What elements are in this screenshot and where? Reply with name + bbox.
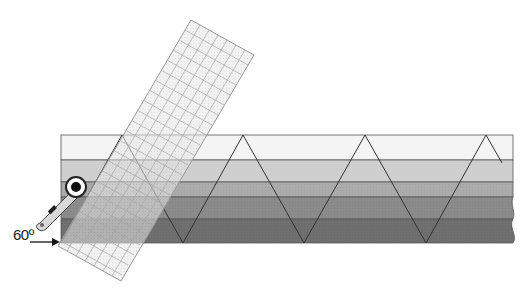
angle-arrow: [30, 238, 60, 246]
diagram-canvas: [0, 0, 531, 296]
diagram: 60º: [0, 0, 531, 296]
angle-label: 60º: [13, 226, 34, 243]
